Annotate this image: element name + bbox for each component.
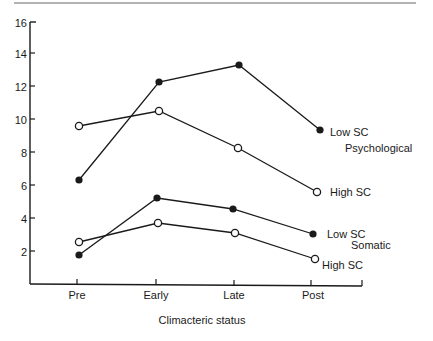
filled-marker: [75, 251, 82, 258]
label-psychological: Psychological: [345, 142, 412, 154]
filled-marker: [235, 61, 242, 68]
open-marker: [311, 255, 318, 262]
chart: 2 4 6 8 10 12 14 16 Pre Early Late Post …: [0, 0, 433, 341]
filled-marker: [153, 194, 160, 201]
x-tick-label: Early: [143, 289, 169, 301]
filled-marker: [155, 78, 162, 85]
series-somatic-high-sc: [75, 219, 318, 262]
filled-marker: [316, 126, 323, 133]
y-tick-label: 10: [15, 114, 27, 126]
x-tick-label: Late: [223, 289, 244, 301]
y-tick-label: 12: [15, 81, 27, 93]
open-marker: [155, 107, 162, 114]
open-marker: [75, 122, 82, 129]
series-somatic-low-sc: [75, 194, 316, 258]
y-tick-label: 16: [15, 17, 27, 29]
open-marker: [313, 188, 320, 195]
filled-marker: [75, 176, 82, 183]
label-psych-low-sc: Low SC: [330, 126, 369, 138]
x-tick-label: Pre: [68, 289, 85, 301]
y-axis: 2 4 6 8 10 12 14 16: [15, 17, 36, 284]
open-marker: [231, 229, 238, 236]
open-marker: [75, 238, 82, 245]
x-axis: Pre Early Late Post Climacteric status: [30, 279, 362, 326]
y-tick-label: 4: [21, 213, 27, 225]
filled-marker: [229, 205, 236, 212]
filled-marker: [309, 230, 316, 237]
label-somatic: Somatic: [351, 239, 391, 251]
y-tick-label: 6: [21, 180, 27, 192]
y-tick-label: 2: [21, 246, 27, 258]
series-psych-low-sc: [75, 61, 323, 183]
series-psych-high-sc: [75, 107, 320, 195]
x-axis-title: Climacteric status: [159, 314, 246, 326]
label-psych-high-sc: High SC: [330, 186, 371, 198]
label-somatic-high-sc: High SC: [322, 259, 363, 271]
open-marker: [234, 144, 241, 151]
open-marker: [154, 219, 161, 226]
y-tick-label: 8: [21, 147, 27, 159]
x-tick-label: Post: [302, 289, 324, 301]
y-tick-label: 14: [15, 48, 27, 60]
